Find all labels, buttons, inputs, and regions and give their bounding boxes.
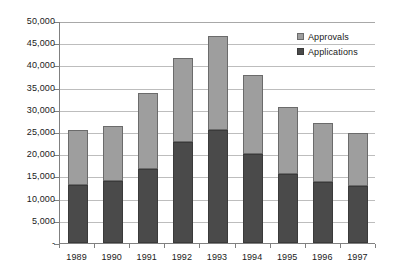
bar-segment-approvals[interactable]: [68, 130, 88, 185]
y-tick-label: 40,000: [27, 61, 55, 70]
x-tick-label: 1994: [232, 252, 272, 262]
y-tick-label: 25,000: [27, 128, 55, 137]
bar-segment-applications[interactable]: [278, 174, 298, 243]
bar-group[interactable]: [348, 133, 368, 243]
legend-label-approvals: Approvals: [308, 32, 349, 42]
bar-segment-approvals[interactable]: [103, 126, 123, 181]
x-tick-mark: [340, 244, 341, 248]
x-tick-label: 1993: [197, 252, 237, 262]
x-tick-label: 1995: [267, 252, 307, 262]
x-tick-label: 1991: [127, 252, 167, 262]
bar-segment-approvals[interactable]: [243, 75, 263, 154]
bar-segment-applications[interactable]: [103, 181, 123, 243]
chart-legend: Approvals Applications: [297, 30, 379, 60]
bar-segment-applications[interactable]: [243, 154, 263, 243]
x-tick-mark: [94, 244, 95, 248]
x-tick-mark: [164, 244, 165, 248]
x-tick-label: 1990: [92, 252, 132, 262]
bar-group[interactable]: [173, 58, 193, 243]
bar-group[interactable]: [208, 36, 228, 243]
bar-segment-approvals[interactable]: [313, 123, 333, 182]
x-tick-mark: [129, 244, 130, 248]
bar-segment-applications[interactable]: [173, 142, 193, 243]
bar-group[interactable]: [68, 130, 88, 243]
y-tick-label: 5,000: [32, 217, 55, 226]
x-tick-label: 1992: [162, 252, 202, 262]
bar-group[interactable]: [313, 123, 333, 243]
bar-segment-applications[interactable]: [313, 182, 333, 243]
bar-segment-approvals[interactable]: [208, 36, 228, 131]
x-tick-mark: [375, 244, 376, 248]
legend-swatch-applications: [297, 48, 304, 55]
y-tick-label: 50,000: [27, 17, 55, 26]
bar-group[interactable]: [243, 75, 263, 243]
bar-group[interactable]: [138, 93, 158, 243]
legend-swatch-approvals: [297, 33, 304, 40]
x-tick-mark: [59, 244, 60, 248]
gridline: [60, 22, 375, 23]
legend-item-approvals[interactable]: Approvals: [297, 30, 379, 43]
y-tick-label: 20,000: [27, 150, 55, 159]
bar-group[interactable]: [103, 126, 123, 243]
bar-segment-applications[interactable]: [208, 130, 228, 243]
y-tick-label: -: [52, 239, 55, 248]
y-tick-label: 15,000: [27, 172, 55, 181]
legend-item-applications[interactable]: Applications: [297, 45, 379, 58]
y-tick-label: 35,000: [27, 84, 55, 93]
y-tick-label: 30,000: [27, 106, 55, 115]
legend-label-applications: Applications: [308, 47, 358, 57]
x-tick-mark: [235, 244, 236, 248]
x-tick-label: 1996: [302, 252, 342, 262]
bar-chart: -5,00010,00015,00020,00025,00030,00035,0…: [0, 0, 400, 278]
x-tick-mark: [199, 244, 200, 248]
x-tick-label: 1997: [337, 252, 377, 262]
x-tick-label: 1989: [57, 252, 97, 262]
bar-segment-applications[interactable]: [138, 169, 158, 243]
y-tick-label: 10,000: [27, 195, 55, 204]
bar-segment-approvals[interactable]: [348, 133, 368, 186]
bar-segment-approvals[interactable]: [138, 93, 158, 169]
x-tick-mark: [270, 244, 271, 248]
bar-segment-approvals[interactable]: [278, 107, 298, 174]
bar-segment-approvals[interactable]: [173, 58, 193, 142]
x-tick-mark: [305, 244, 306, 248]
bar-segment-applications[interactable]: [68, 185, 88, 243]
bar-segment-applications[interactable]: [348, 186, 368, 243]
y-tick-label: 45,000: [27, 39, 55, 48]
bar-group[interactable]: [278, 107, 298, 243]
